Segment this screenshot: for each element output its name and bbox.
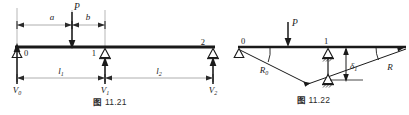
figure-11-22-caption: 图 11.22 bbox=[218, 93, 409, 105]
dimension-row-top bbox=[17, 21, 105, 29]
span-label-l1-sub: 1 bbox=[61, 71, 64, 77]
caption-prefix-2: 图 bbox=[297, 95, 306, 105]
node-label-2: 2 bbox=[201, 37, 205, 47]
displacement-label-delta1: δ1 bbox=[350, 61, 357, 72]
point-load-P-2 bbox=[285, 22, 292, 47]
dimension-label-b: b bbox=[86, 12, 91, 22]
rotation-label-R0-sub: 0 bbox=[265, 70, 268, 76]
load-label-P: P bbox=[73, 2, 80, 12]
point-load-P bbox=[69, 12, 76, 49]
span-label-l1: l1 bbox=[58, 66, 64, 77]
span-label-l2: l2 bbox=[156, 66, 162, 77]
figure-11-22: P bbox=[218, 0, 409, 115]
figure-sheet: a b P 0 1 bbox=[0, 0, 409, 115]
displacement-label-delta1-sub: 1 bbox=[354, 66, 357, 72]
dimension-row-bottom bbox=[17, 74, 213, 82]
span-label-l2-sub: 2 bbox=[159, 71, 162, 77]
node-label-0: 0 bbox=[24, 48, 28, 58]
node-label-1: 1 bbox=[92, 48, 96, 58]
caption-number-1: 11.21 bbox=[105, 97, 127, 107]
figure-11-21-caption: 图 11.21 bbox=[0, 95, 220, 107]
displacement-dimension-delta1 bbox=[330, 47, 363, 82]
rotation-arcs bbox=[268, 47, 378, 62]
rotation-label-R: R bbox=[386, 62, 393, 72]
support-node-1-displaced bbox=[322, 75, 334, 88]
node-label-0-fig2: 0 bbox=[241, 36, 245, 46]
figure-11-21: a b P 0 1 bbox=[0, 0, 220, 115]
caption-number-2: 11.22 bbox=[309, 95, 331, 105]
rotation-label-R0: R0 bbox=[259, 65, 269, 76]
support-node-0-fig2 bbox=[234, 49, 244, 58]
load-label-P-2: P bbox=[291, 18, 298, 28]
caption-prefix-1: 图 bbox=[93, 97, 102, 107]
node-label-1-fig2: 1 bbox=[324, 36, 328, 46]
dimension-label-a: a bbox=[50, 12, 55, 22]
